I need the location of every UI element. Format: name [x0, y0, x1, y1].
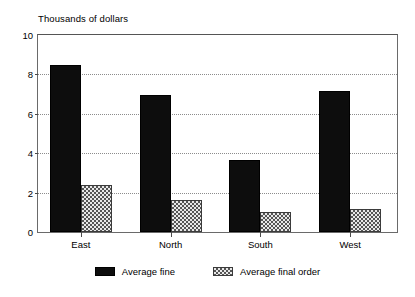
y-axis-title: Thousands of dollars — [38, 13, 128, 24]
y-tick-label: 6 — [28, 108, 33, 119]
bar-east-final — [81, 185, 112, 232]
legend-swatch-icon — [95, 267, 115, 276]
y-tick-mark — [35, 74, 38, 75]
x-tick-mark — [260, 232, 261, 237]
y-tick-label: 8 — [28, 69, 33, 80]
bar-west-fine — [319, 91, 350, 232]
x-category-label-east: East — [71, 239, 90, 250]
legend-swatch-icon — [213, 267, 233, 276]
x-category-label-south: South — [248, 239, 273, 250]
bar-west-final — [350, 209, 381, 232]
bar-chart-figure: Thousands of dollars 0246810 EastNorthSo… — [0, 0, 415, 297]
legend-entry-average-final-order: Average final order — [213, 266, 320, 277]
x-category-label-west: West — [339, 239, 360, 250]
bar-north-final — [171, 200, 202, 232]
bar-south-final — [260, 212, 291, 232]
bar-north-fine — [140, 95, 171, 232]
y-tick-label: 10 — [22, 30, 33, 41]
legend-label: Average fine — [122, 266, 175, 277]
legend-entry-average-fine: Average fine — [95, 266, 175, 277]
y-tick-label: 2 — [28, 187, 33, 198]
y-tick-mark — [35, 193, 38, 194]
legend-label: Average final order — [240, 266, 320, 277]
x-tick-mark — [81, 232, 82, 237]
gridline — [38, 74, 397, 75]
chart-legend: Average fineAverage final order — [0, 266, 415, 277]
x-tick-mark — [171, 232, 172, 237]
y-tick-label: 0 — [28, 227, 33, 238]
bar-south-fine — [229, 160, 260, 232]
x-category-label-north: North — [159, 239, 182, 250]
bar-east-fine — [50, 65, 81, 232]
plot-area: 0246810 — [37, 34, 398, 233]
y-tick-mark — [35, 114, 38, 115]
x-tick-mark — [350, 232, 351, 237]
y-tick-mark — [35, 153, 38, 154]
y-tick-label: 4 — [28, 148, 33, 159]
